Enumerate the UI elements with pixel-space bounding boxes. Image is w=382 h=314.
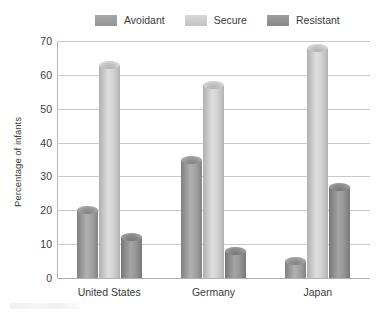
bar-body [181, 160, 202, 279]
y-tick-label-40: 40 [28, 137, 52, 149]
y-axis-title-text: Percentage of infants [12, 92, 23, 232]
y-tick-label-60: 60 [28, 69, 52, 81]
plot-area [57, 41, 370, 278]
legend-label-secure: Secure [214, 15, 247, 26]
bar-avoidant-japan [285, 257, 306, 278]
bar-resistant-united-states [121, 233, 142, 278]
bar-secure-united-states [99, 61, 120, 278]
bar-top-cap [181, 156, 202, 164]
bar-secure-japan [307, 44, 328, 278]
legend-item-resistant: Resistant [267, 15, 340, 26]
legend-swatch-avoidant [95, 15, 117, 26]
bar-resistant-germany [225, 247, 246, 278]
bar-body [121, 237, 142, 278]
x-tick-label-united-states: United States [59, 286, 159, 298]
bar-top-cap [329, 183, 350, 191]
bar-body [225, 251, 246, 278]
y-tick-label-70: 70 [28, 35, 52, 47]
bar-secure-germany [203, 81, 224, 278]
bar-chart-figure: Avoidant Secure Resistant Percentage of … [0, 0, 382, 314]
y-tick-label-10: 10 [28, 238, 52, 250]
bar-avoidant-germany [181, 156, 202, 279]
legend-swatch-secure [185, 15, 207, 26]
gridline-0 [57, 278, 370, 279]
y-tick-label-30: 30 [28, 170, 52, 182]
bar-body [99, 65, 120, 278]
x-tick-label-japan: Japan [268, 286, 368, 298]
bar-top-cap [203, 81, 224, 89]
legend-item-avoidant: Avoidant [95, 15, 165, 26]
y-tick-label-50: 50 [28, 103, 52, 115]
bar-body [203, 85, 224, 278]
legend-swatch-resistant [267, 15, 289, 26]
legend-label-resistant: Resistant [296, 15, 340, 26]
x-tick-label-germany: Germany [164, 286, 264, 298]
y-tick-label-0: 0 [28, 272, 52, 284]
bar-top-cap [307, 44, 328, 52]
bar-top-cap [99, 61, 120, 69]
legend-label-avoidant: Avoidant [124, 15, 165, 26]
y-tick-label-20: 20 [28, 204, 52, 216]
page-artifact [10, 303, 80, 309]
bar-resistant-japan [329, 183, 350, 278]
y-axis-title: Percentage of infants [2, 0, 13, 92]
chart-legend: Avoidant Secure Resistant [95, 13, 360, 27]
bar-body [329, 187, 350, 278]
bar-avoidant-united-states [77, 206, 98, 278]
bar-body [77, 210, 98, 278]
gridline-70 [57, 41, 370, 42]
bar-body [307, 48, 328, 278]
bar-top-cap [225, 247, 246, 255]
legend-item-secure: Secure [185, 15, 247, 26]
